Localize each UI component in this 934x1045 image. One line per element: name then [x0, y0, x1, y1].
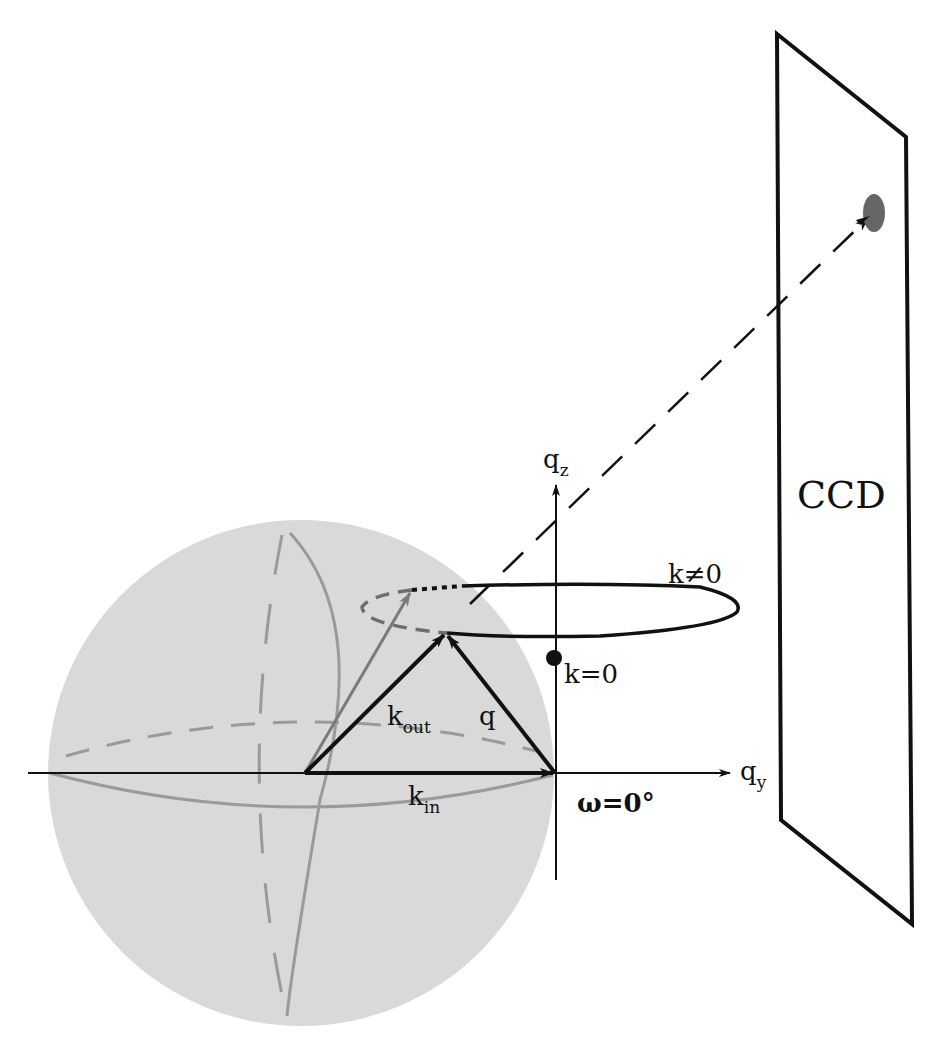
k-nonzero-label: k≠0 [668, 559, 722, 589]
diffraction-spot [863, 194, 885, 232]
ccd-detector: CCD [777, 34, 912, 924]
qy-axis-label: qy [740, 756, 767, 792]
omega-label: ω=0° [577, 788, 655, 818]
k-zero-point [546, 650, 562, 666]
k-zero-label: k=0 [564, 659, 618, 689]
qz-axis-label: qz [543, 444, 569, 480]
scattering-diagram: qy qz kout q kin k=0 k≠0 ω=0° CCD [0, 0, 934, 1045]
ccd-label: CCD [797, 473, 886, 517]
q-label: q [479, 701, 496, 731]
